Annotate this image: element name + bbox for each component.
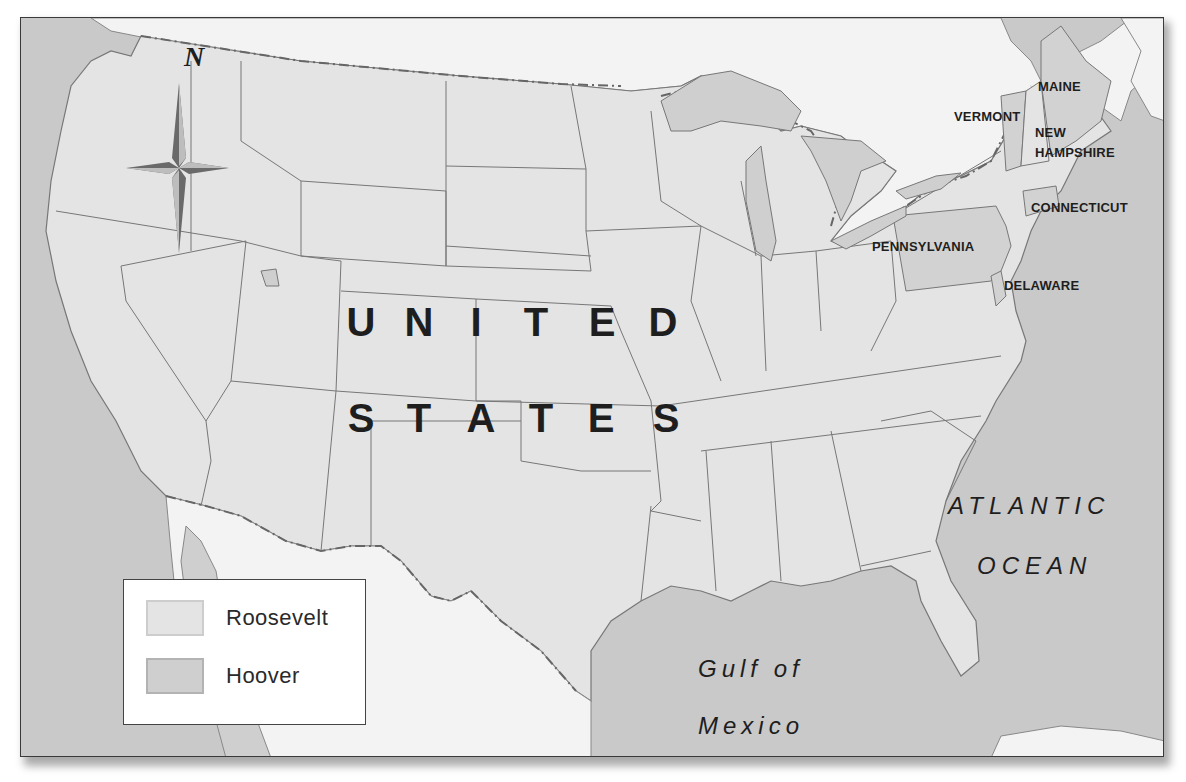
legend-item-hoover: Hoover	[146, 658, 300, 694]
legend-label-hoover: Hoover	[226, 663, 300, 689]
state-label-delaware: DELAWARE	[1004, 278, 1079, 293]
state-label-new-hampshire-1: NEW	[1035, 125, 1066, 140]
country-letter: A	[451, 396, 511, 441]
country-letter: E	[571, 396, 631, 441]
map-legend: Roosevelt Hoover	[123, 579, 366, 725]
country-letter: T	[511, 396, 571, 441]
ocean-label-atlantic-2: OCEAN	[977, 552, 1092, 580]
state-label-maine: MAINE	[1038, 79, 1081, 94]
compass-rose-icon	[124, 78, 234, 258]
country-letter: S	[335, 396, 387, 441]
country-letter: I	[451, 300, 501, 345]
country-letter: D	[633, 300, 693, 345]
country-label-line2: STATES	[335, 396, 705, 441]
compass-north-label: N	[184, 41, 204, 73]
state-label-new-hampshire-2: HAMPSHIRE	[1035, 145, 1115, 160]
ocean-label-atlantic-1: ATLANTIC	[948, 492, 1110, 520]
state-label-connecticut: CONNECTICUT	[1031, 200, 1128, 215]
country-letter: N	[387, 300, 451, 345]
caribbean-island	[991, 726, 1164, 757]
state-label-pennsylvania: PENNSYLVANIA	[872, 239, 974, 254]
legend-item-roosevelt: Roosevelt	[146, 600, 328, 636]
legend-swatch-hoover	[146, 658, 204, 694]
state-label-vermont: VERMONT	[954, 109, 1020, 124]
country-letter: T	[501, 300, 571, 345]
country-letter: E	[571, 300, 633, 345]
country-letter: U	[335, 300, 387, 345]
gulf-label-1: Gulf of	[698, 655, 804, 683]
legend-label-roosevelt: Roosevelt	[226, 605, 328, 631]
legend-swatch-roosevelt	[146, 600, 204, 636]
country-label-line1: UNITED	[335, 300, 705, 345]
country-letter: T	[387, 396, 451, 441]
election-map: N UNITED STATES MAINE VERMONT NEW HAMPSH…	[20, 17, 1164, 757]
country-letter: S	[631, 396, 701, 441]
gulf-label-2: Mexico	[698, 712, 804, 740]
